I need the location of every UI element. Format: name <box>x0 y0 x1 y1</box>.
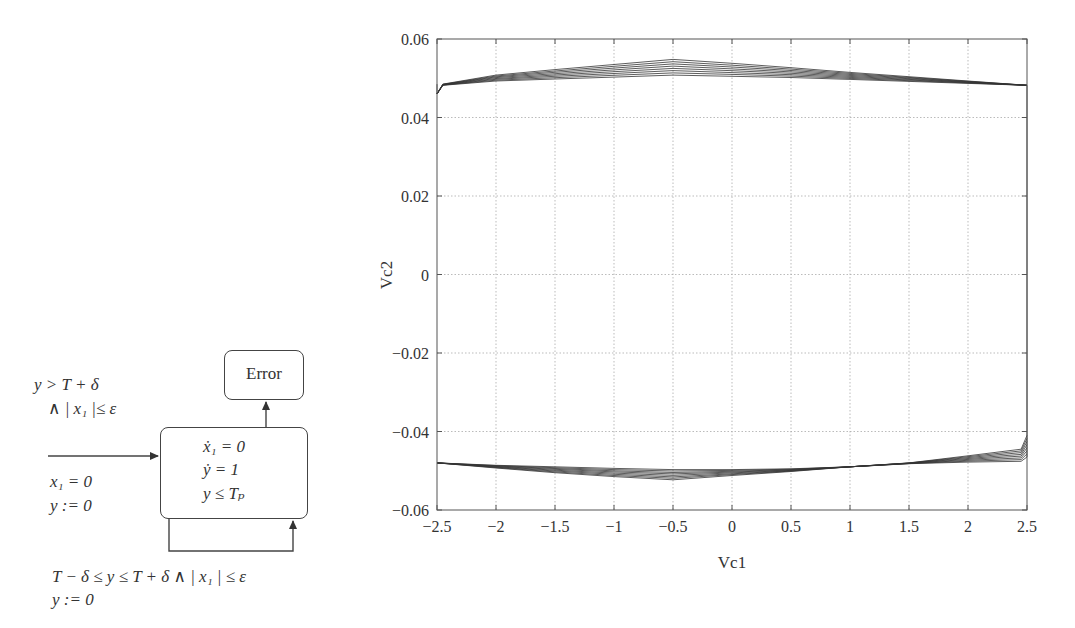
trajectories <box>437 59 1027 479</box>
x-tick-label: −0.5 <box>658 518 687 535</box>
x-axis-label: Vc1 <box>718 553 746 572</box>
phase-portrait-chart: −2.5−2−1.5−1−0.500.511.522.5 0.060.040.0… <box>0 0 1075 628</box>
y-tick-label: 0 <box>421 267 429 284</box>
y-tick-label: 0.04 <box>401 110 429 127</box>
y-tick-label: −0.02 <box>392 345 429 362</box>
x-tick-label: −2 <box>487 518 504 535</box>
x-tick-label: 1.5 <box>899 518 919 535</box>
y-tick-label: 0.06 <box>401 31 429 48</box>
x-tick-label: 0 <box>728 518 736 535</box>
x-tick-label: 0.5 <box>781 518 801 535</box>
x-tick-labels: −2.5−2−1.5−1−0.500.511.522.5 <box>422 518 1037 535</box>
y-tick-label: 0.02 <box>401 188 429 205</box>
x-tick-label: 2 <box>964 518 972 535</box>
x-tick-label: 2.5 <box>1017 518 1037 535</box>
x-tick-label: −1.5 <box>540 518 569 535</box>
x-tick-label: −1 <box>605 518 622 535</box>
grid-lines <box>437 39 1027 510</box>
y-tick-labels: 0.060.040.020−0.02−0.04−0.06 <box>392 31 429 519</box>
y-tick-label: −0.06 <box>392 502 429 519</box>
y-tick-label: −0.04 <box>392 424 429 441</box>
y-axis-label: Vc2 <box>377 261 396 289</box>
x-tick-label: −2.5 <box>422 518 451 535</box>
x-tick-label: 1 <box>846 518 854 535</box>
